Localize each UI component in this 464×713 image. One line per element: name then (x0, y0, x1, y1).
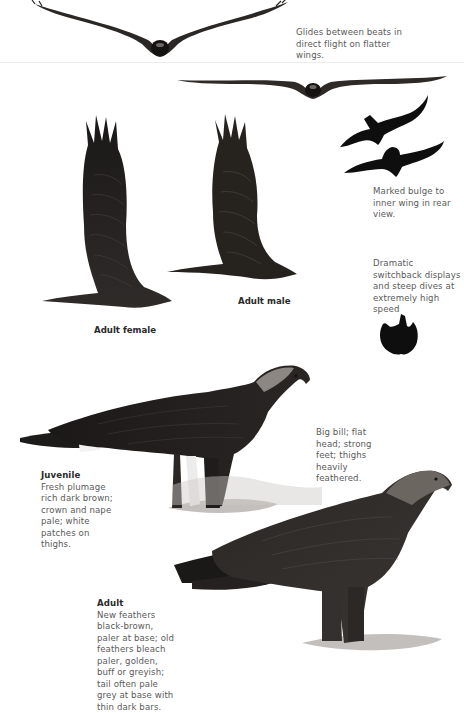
adult-male-caption: Adult male (238, 296, 291, 306)
eagle-glide-front-illustration (30, 0, 295, 60)
eagle-adult-male-flight-illustration (165, 112, 300, 282)
eagle-adult-perched-icon (172, 465, 462, 655)
eagle-silhouette-rear-icon (342, 137, 444, 177)
juvenile-title: Juvenile (41, 470, 121, 482)
eagle-adult-perched-illustration (172, 465, 462, 655)
juvenile-note: Juvenile Fresh plumage rich dark brown; … (41, 470, 121, 551)
bill-note: Big bill; flat head; strong feet; thighs… (316, 427, 390, 485)
eagle-silhouette-dive-icon (375, 310, 423, 358)
glide-note: Glides between beats in direct flight on… (296, 27, 406, 62)
rear-view-note: Marked bulge to inner wing in rear view. (373, 186, 463, 221)
eagle-adult-female-flight-illustration (40, 115, 175, 315)
juvenile-text: Fresh plumage rich dark brown; crown and… (41, 482, 113, 550)
eagle-upstroke-male-icon (165, 112, 300, 282)
display-note: Dramatic switchback displays and steep d… (373, 258, 464, 316)
adult-text: New feathers black-brown, paler at base;… (97, 610, 174, 712)
eagle-silhouette-rear-2 (342, 137, 444, 177)
adult-title: Adult (97, 598, 177, 610)
eagle-silhouette-dive (375, 310, 423, 358)
section-divider (0, 62, 464, 63)
adult-female-caption: Adult female (94, 325, 156, 335)
eagle-upstroke-female-icon (40, 115, 175, 315)
eagle-glide-front-icon (30, 0, 295, 60)
adult-note: Adult New feathers black-brown, paler at… (97, 598, 177, 713)
